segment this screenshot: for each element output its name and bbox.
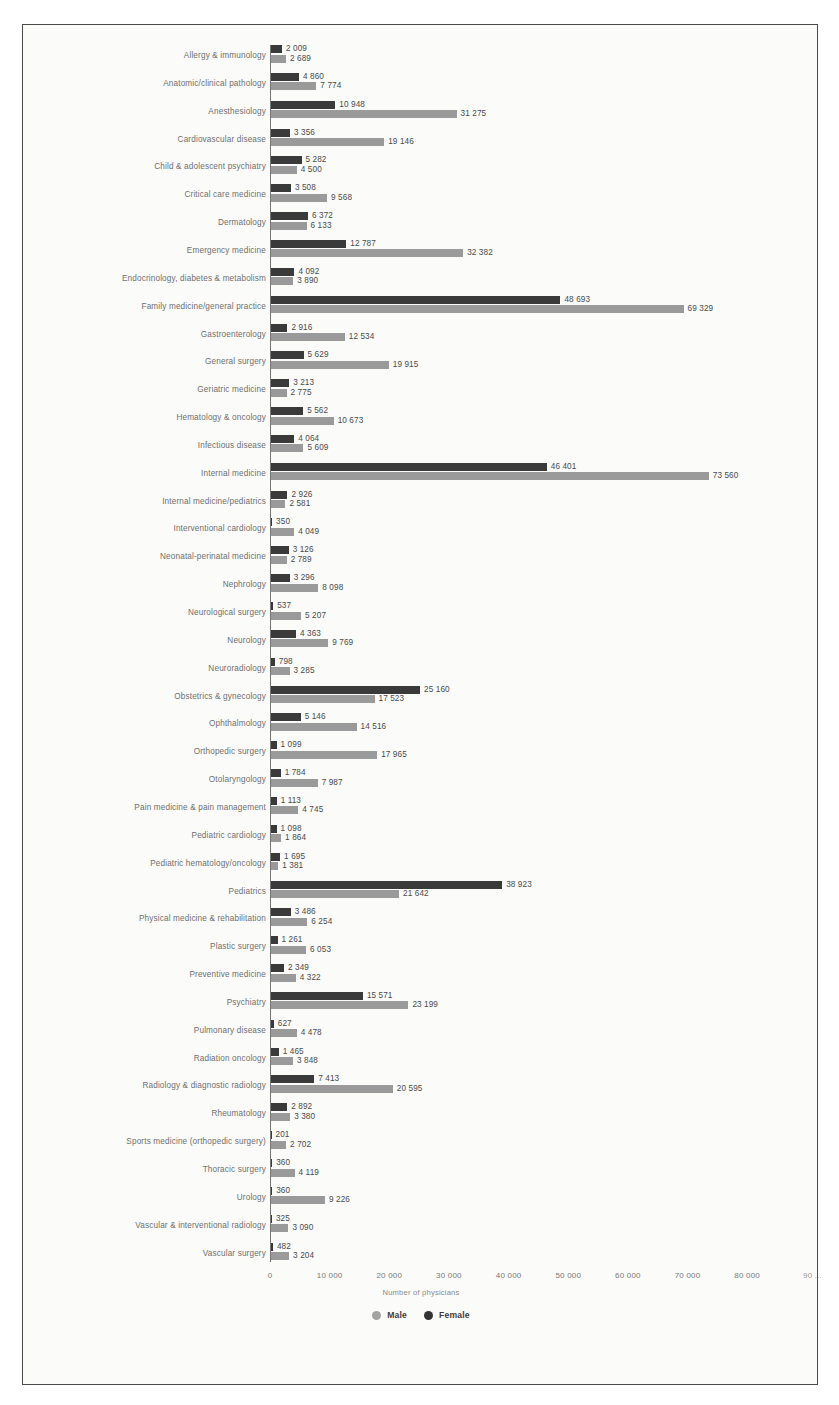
bar-male[interactable] <box>270 444 303 452</box>
bar-female[interactable] <box>270 713 301 721</box>
bar-female[interactable] <box>270 908 291 916</box>
bar-female[interactable] <box>270 240 346 248</box>
chart-row: Endocrinology, diabetes & metabolism4 09… <box>23 268 819 296</box>
bar-value-label: 2 916 <box>291 323 312 333</box>
bar-value-label: 7 987 <box>322 778 343 788</box>
chart-row: Rheumatology2 8923 380 <box>23 1103 819 1131</box>
bar-male[interactable] <box>270 918 307 926</box>
chart-row: Family medicine/general practice48 69369… <box>23 296 819 324</box>
bar-male[interactable] <box>270 1057 293 1065</box>
bar-female[interactable] <box>270 630 296 638</box>
bar-male[interactable] <box>270 639 328 647</box>
bar-male[interactable] <box>270 1001 408 1009</box>
bar-male[interactable] <box>270 556 287 564</box>
bar-female[interactable] <box>270 268 294 276</box>
bar-value-label: 5 146 <box>305 712 326 722</box>
chart-row: Internal medicine/pediatrics2 9262 581 <box>23 491 819 519</box>
bar-male[interactable] <box>270 862 278 870</box>
bar-male[interactable] <box>270 1169 295 1177</box>
bar-female[interactable] <box>270 351 304 359</box>
bar-female[interactable] <box>270 1075 314 1083</box>
legend-item-female[interactable]: Female <box>424 1310 470 1320</box>
bar-female[interactable] <box>270 435 294 443</box>
bar-male[interactable] <box>270 138 384 146</box>
bar-male[interactable] <box>270 1196 325 1204</box>
category-label: Radiation oncology <box>26 1055 266 1063</box>
bar-male[interactable] <box>270 723 357 731</box>
bar-male[interactable] <box>270 1224 288 1232</box>
chart-row: Allergy & immunology2 0092 689 <box>23 45 819 73</box>
bar-female[interactable] <box>270 574 290 582</box>
bar-male[interactable] <box>270 584 318 592</box>
bar-female[interactable] <box>270 964 284 972</box>
bar-female[interactable] <box>270 129 290 137</box>
bar-value-label: 7 413 <box>318 1074 339 1084</box>
bar-male[interactable] <box>270 305 684 313</box>
bar-male[interactable] <box>270 779 318 787</box>
bar-male[interactable] <box>270 946 306 954</box>
bar-male[interactable] <box>270 417 334 425</box>
bar-male[interactable] <box>270 361 389 369</box>
bar-female[interactable] <box>270 184 291 192</box>
bar-female[interactable] <box>270 546 289 554</box>
bar-female[interactable] <box>270 156 302 164</box>
bar-male[interactable] <box>270 82 316 90</box>
bar-male[interactable] <box>270 249 463 257</box>
bar-value-label: 7 774 <box>320 81 341 91</box>
bar-female[interactable] <box>270 324 287 332</box>
bar-female[interactable] <box>270 379 289 387</box>
bar-female[interactable] <box>270 73 299 81</box>
chart-row: Psychiatry15 57123 199 <box>23 992 819 1020</box>
bar-male[interactable] <box>270 1085 393 1093</box>
category-label: Neuroradiology <box>26 665 266 673</box>
bar-male[interactable] <box>270 806 298 814</box>
y-axis-line <box>270 45 271 1262</box>
bar-male[interactable] <box>270 277 293 285</box>
bar-male[interactable] <box>270 695 375 703</box>
bar-male[interactable] <box>270 500 285 508</box>
bar-value-label: 360 <box>276 1186 290 1196</box>
bar-female[interactable] <box>270 45 282 53</box>
bar-female[interactable] <box>270 992 363 1000</box>
bar-male[interactable] <box>270 667 290 675</box>
bar-male[interactable] <box>270 194 327 202</box>
bar-female[interactable] <box>270 463 547 471</box>
bar-male[interactable] <box>270 528 294 536</box>
bar-male[interactable] <box>270 222 307 230</box>
bar-male[interactable] <box>270 890 399 898</box>
bar-male[interactable] <box>270 333 345 341</box>
bar-male[interactable] <box>270 834 281 842</box>
bar-male[interactable] <box>270 751 377 759</box>
bar-male[interactable] <box>270 55 286 63</box>
category-label: Hematology & oncology <box>26 414 266 422</box>
bar-female[interactable] <box>270 769 281 777</box>
bar-female[interactable] <box>270 296 560 304</box>
chart-row: Emergency medicine12 78732 382 <box>23 240 819 268</box>
bar-male[interactable] <box>270 472 709 480</box>
bar-male[interactable] <box>270 1252 289 1260</box>
bar-male[interactable] <box>270 974 296 982</box>
bar-male[interactable] <box>270 1029 297 1037</box>
bar-value-label: 6 053 <box>310 945 331 955</box>
bar-female[interactable] <box>270 686 420 694</box>
bar-value-label: 19 146 <box>388 137 414 147</box>
bar-female[interactable] <box>270 853 280 861</box>
bar-female[interactable] <box>270 936 278 944</box>
bar-female[interactable] <box>270 101 335 109</box>
bar-female[interactable] <box>270 881 502 889</box>
bar-female[interactable] <box>270 212 308 220</box>
category-label: Obstetrics & gynecology <box>26 693 266 701</box>
bar-male[interactable] <box>270 612 301 620</box>
category-label: Family medicine/general practice <box>26 303 266 311</box>
bar-male[interactable] <box>270 166 297 174</box>
category-label: Nephrology <box>26 581 266 589</box>
bar-male[interactable] <box>270 1113 290 1121</box>
bar-male[interactable] <box>270 1141 286 1149</box>
bar-male[interactable] <box>270 110 457 118</box>
legend-item-male[interactable]: Male <box>372 1310 407 1320</box>
bar-female[interactable] <box>270 1103 287 1111</box>
bar-female[interactable] <box>270 1048 279 1056</box>
bar-female[interactable] <box>270 491 287 499</box>
bar-male[interactable] <box>270 389 287 397</box>
bar-female[interactable] <box>270 407 303 415</box>
